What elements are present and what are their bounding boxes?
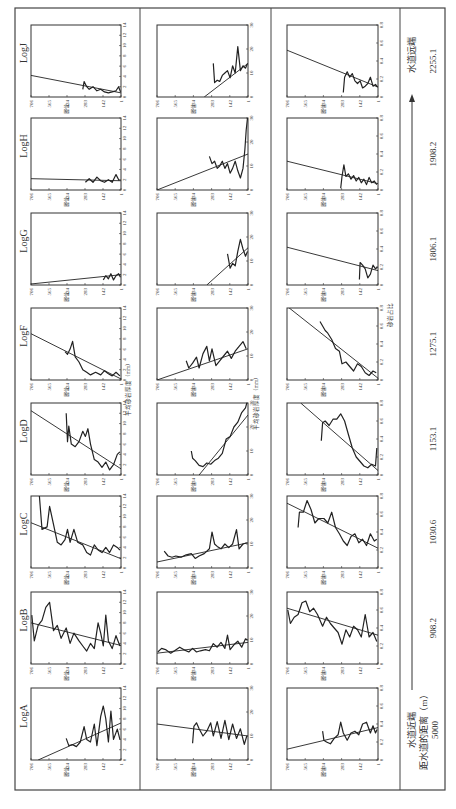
plot-area bbox=[287, 592, 378, 664]
plot-area bbox=[157, 403, 248, 475]
strata-tick-label: 142 bbox=[228, 288, 233, 296]
strata-tick-label: 565 bbox=[47, 100, 52, 108]
strata-tick-label: 283 bbox=[340, 571, 345, 579]
value-tick-label: 6 bbox=[122, 535, 127, 538]
strata-tick-label: 283 bbox=[210, 383, 215, 391]
value-tick-label: 14 bbox=[122, 589, 127, 595]
plot-logh-panel-2: 0102030層位 bbox=[157, 115, 254, 207]
strata-tick-label: 424 bbox=[65, 763, 70, 771]
strata-tick-label: 565 bbox=[47, 288, 52, 296]
value-tick-label: 20 bbox=[249, 709, 254, 715]
strata-tick-label: 424 bbox=[65, 383, 70, 391]
plot-loga-panel-1: 02468101214層位 bbox=[31, 685, 127, 777]
value-tick-label: 0.8 bbox=[379, 114, 384, 121]
value-tick-label: 10 bbox=[122, 706, 127, 712]
value-tick-label: 2 bbox=[122, 273, 127, 276]
log-label-loga: LogA bbox=[18, 704, 29, 728]
strata-tick-label: 283 bbox=[340, 478, 345, 486]
strata-tick-label: 424 bbox=[191, 571, 196, 579]
strata-tick-label: 706 bbox=[29, 667, 34, 675]
value-tick-label: 4 bbox=[122, 453, 127, 456]
plot-logg-panel-3: 00.20.40.60.8層位 bbox=[287, 209, 384, 302]
plot-area bbox=[31, 308, 121, 380]
strata-tick-label: 424 bbox=[321, 100, 326, 108]
plot-area bbox=[157, 688, 248, 760]
strata-tick-label: 142 bbox=[228, 667, 233, 675]
strata-tick-label: 565 bbox=[47, 763, 52, 771]
log-label-logf: LogF bbox=[18, 325, 29, 347]
value-tick-label: 0.2 bbox=[379, 358, 384, 365]
strata-tick-label: 283 bbox=[210, 763, 215, 771]
plot-logg-panel-1: 02468101214層位 bbox=[31, 210, 127, 302]
plot-logd-panel-1: 02468101214層位 bbox=[31, 400, 127, 492]
log-label-logh: LogH bbox=[18, 134, 29, 157]
value-tick-label: 10 bbox=[122, 610, 127, 616]
strata-tick-label: 283 bbox=[340, 193, 345, 201]
strata-tick-label: 424 bbox=[65, 571, 70, 579]
value-tick-label: 10 bbox=[249, 448, 254, 454]
strata-tick-label: 424 bbox=[321, 763, 326, 771]
strata-tick-label: 142 bbox=[358, 571, 363, 579]
strata-tick-label: 706 bbox=[29, 288, 34, 296]
value-tick-label: 0 bbox=[122, 188, 127, 191]
value-tick-label: 0.4 bbox=[379, 340, 384, 347]
value-tick-label: 2 bbox=[122, 463, 127, 466]
value-tick-label: 30 bbox=[249, 493, 254, 499]
value-tick-label: 10 bbox=[249, 353, 254, 359]
strata-tick-label: 706 bbox=[285, 763, 290, 771]
value-tick-label: 30 bbox=[249, 210, 254, 216]
value-tick-label: 0.2 bbox=[379, 453, 384, 460]
strata-tick-label: 142 bbox=[228, 763, 233, 771]
strata-tick-label: 142 bbox=[358, 478, 363, 486]
strata-tick-label: 565 bbox=[173, 763, 178, 771]
panel-1-value-label: 平均砂岩厚度（mm） bbox=[124, 360, 132, 417]
value-tick-label: 4 bbox=[122, 546, 127, 549]
strata-tick-label: 1 bbox=[246, 193, 251, 196]
strata-tick-label: 706 bbox=[29, 383, 34, 391]
strata-tick-label: 1 bbox=[119, 288, 124, 291]
value-tick-label: 6 bbox=[122, 631, 127, 634]
plot-logc-panel-3: 00.20.40.60.8層位 bbox=[287, 492, 384, 585]
value-tick-label: 0 bbox=[122, 758, 127, 761]
value-tick-label: 4 bbox=[122, 738, 127, 741]
strata-tick-label: 1 bbox=[246, 478, 251, 481]
value-tick-label: 0.4 bbox=[379, 245, 384, 252]
strata-tick-label: 706 bbox=[155, 288, 160, 296]
strata-tick-label: 283 bbox=[210, 667, 215, 675]
strata-tick-label: 1 bbox=[119, 571, 124, 574]
value-tick-label: 0 bbox=[379, 662, 384, 665]
strata-tick-label: 565 bbox=[303, 571, 308, 579]
value-tick-label: 14 bbox=[122, 210, 127, 216]
strata-tick-label: 424 bbox=[321, 193, 326, 201]
strata-tick-label: 424 bbox=[65, 478, 70, 486]
strata-tick-label: 283 bbox=[83, 478, 88, 486]
distance-value: 1806.1 bbox=[428, 237, 438, 262]
strata-tick-label: 565 bbox=[173, 288, 178, 296]
strata-tick-label: 706 bbox=[285, 383, 290, 391]
strata-tick-label: 283 bbox=[210, 193, 215, 201]
value-tick-label: 0 bbox=[379, 378, 384, 381]
strata-tick-label: 283 bbox=[340, 667, 345, 675]
value-tick-label: 2 bbox=[122, 85, 127, 88]
distance-title: 距水道的距离（m） bbox=[418, 690, 429, 769]
far-end-label: 水道远端 bbox=[406, 37, 417, 73]
value-tick-label: 0 bbox=[122, 95, 127, 98]
plot-area bbox=[287, 688, 378, 760]
strata-tick-label: 1 bbox=[246, 571, 251, 574]
plot-area bbox=[287, 403, 378, 475]
strata-tick-label: 1 bbox=[376, 667, 381, 670]
strata-tick-label: 706 bbox=[285, 100, 290, 108]
strata-tick-label: 706 bbox=[155, 763, 160, 771]
strata-tick-label: 706 bbox=[29, 478, 34, 486]
strata-tick-label: 424 bbox=[321, 571, 326, 579]
value-tick-label: 0 bbox=[379, 473, 384, 476]
value-tick-label: 0.2 bbox=[379, 168, 384, 175]
strata-tick-label: 565 bbox=[47, 383, 52, 391]
value-tick-label: 0 bbox=[122, 566, 127, 569]
strata-tick-label: 283 bbox=[83, 100, 88, 108]
value-tick-label: 12 bbox=[122, 32, 127, 38]
log-label-logg: LogG bbox=[18, 229, 29, 252]
plot-area bbox=[287, 308, 378, 380]
strata-tick-label: 142 bbox=[358, 288, 363, 296]
value-tick-label: 0.8 bbox=[379, 684, 384, 691]
